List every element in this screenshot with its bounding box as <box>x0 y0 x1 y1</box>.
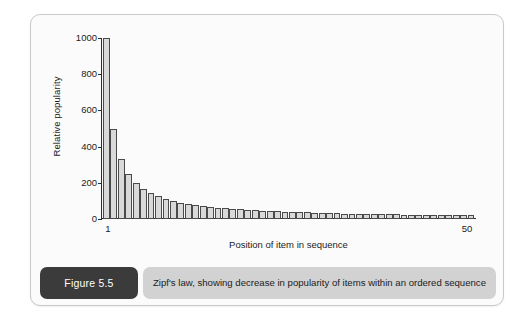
bar <box>371 214 378 219</box>
y-axis-tick-label: 1000 <box>63 33 97 43</box>
bar <box>177 203 184 219</box>
bar <box>274 211 281 219</box>
bar <box>430 215 437 219</box>
bar-series <box>103 38 475 219</box>
y-axis-tick-label: 200 <box>63 178 97 188</box>
bar <box>163 199 170 219</box>
figure-caption-bar: Zipf's law, showing decrease in populari… <box>143 267 496 299</box>
bar <box>170 201 177 219</box>
bar <box>207 207 214 219</box>
figure-container: Relative popularity 02004006008001000 1 … <box>30 14 504 306</box>
bar <box>148 193 155 219</box>
bar <box>267 211 274 219</box>
bar <box>326 213 333 219</box>
bar <box>125 174 132 219</box>
bar <box>252 210 259 219</box>
bar <box>334 213 341 219</box>
bar <box>133 183 140 219</box>
bar <box>453 215 460 219</box>
bar <box>237 209 244 219</box>
bar <box>415 215 422 219</box>
bar <box>341 214 348 219</box>
bar <box>222 208 229 219</box>
y-axis-tick-label: 400 <box>63 142 97 152</box>
bar <box>110 129 117 220</box>
y-axis-title: Relative popularity <box>51 52 62 182</box>
bar <box>200 206 207 219</box>
bar <box>118 159 125 219</box>
bar <box>438 215 445 219</box>
bar <box>401 215 408 219</box>
bar <box>289 212 296 219</box>
figure-number-badge: Figure 5.5 <box>40 267 138 299</box>
y-axis-tick-label: 600 <box>63 105 97 115</box>
bar <box>229 209 236 219</box>
bar <box>363 214 370 219</box>
bar <box>468 215 475 219</box>
figure-number-label: Figure 5.5 <box>64 277 113 289</box>
figure-caption-row: Figure 5.5 Zipf's law, showing decrease … <box>40 267 496 299</box>
bar <box>319 213 326 219</box>
bar <box>259 211 266 219</box>
x-axis-tick-label-first: 1 <box>96 223 120 234</box>
bar <box>349 214 356 219</box>
bar <box>296 212 303 219</box>
y-axis-tick-label: 800 <box>63 69 97 79</box>
bar <box>445 215 452 219</box>
bar <box>282 212 289 219</box>
bar <box>140 189 147 219</box>
x-axis-title: Position of item in sequence <box>101 239 476 250</box>
bar <box>378 214 385 219</box>
bar <box>408 215 415 219</box>
bar <box>356 214 363 219</box>
chart-plot-area: Relative popularity 02004006008001000 1 … <box>31 15 505 261</box>
bar <box>244 210 251 219</box>
x-axis-tick-label-last: 50 <box>455 223 479 234</box>
bar <box>192 205 199 219</box>
figure-caption-text: Zipf's law, showing decrease in populari… <box>153 277 486 290</box>
bar <box>304 212 311 219</box>
bar <box>393 214 400 219</box>
bar <box>460 215 467 219</box>
y-axis-tick-labels: 02004006008001000 <box>63 15 97 261</box>
y-axis-tick-label: 0 <box>63 214 97 224</box>
bar <box>423 215 430 219</box>
bar <box>185 204 192 219</box>
bar <box>386 214 393 219</box>
bar <box>215 208 222 219</box>
bar <box>103 38 110 219</box>
bar <box>311 213 318 219</box>
bar <box>155 196 162 219</box>
